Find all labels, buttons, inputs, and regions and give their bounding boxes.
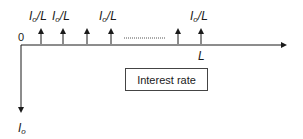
- payment-label: Io/L: [190, 10, 208, 24]
- end-period-label: L: [198, 50, 205, 62]
- payment-label: Io/L: [29, 10, 47, 24]
- payment-arrows: [41, 31, 201, 44]
- initial-outflow-label: Io: [18, 122, 26, 136]
- payment-label: Io/L: [99, 10, 117, 24]
- payment-label: Io/L: [52, 10, 70, 24]
- origin-label: 0: [18, 31, 24, 43]
- interest-rate-box: Interest rate: [125, 68, 208, 91]
